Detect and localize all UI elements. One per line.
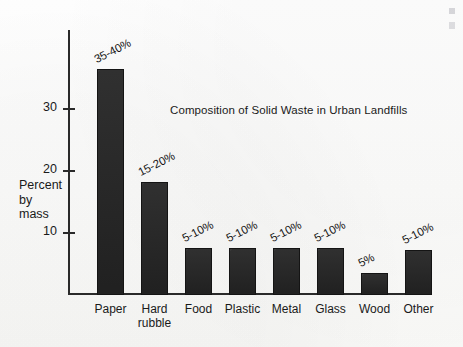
x-axis-category-label: Glass [315,303,346,317]
bar-group[interactable]: 35-40%Paper [97,69,124,295]
bar-value-label: 5-10% [224,218,260,245]
bar-value-label: 15-20% [136,149,177,179]
bar-value-label: 35-40% [92,36,133,66]
bar-rect[interactable] [185,248,212,295]
bar-group[interactable]: 5-10%Other [405,250,432,295]
bar-value-label: 5-10% [400,220,436,247]
bar-group[interactable]: 5-10%Food [185,248,212,295]
x-axis-category-label: Wood [359,303,390,317]
bar-rect[interactable] [229,248,256,295]
bar-rect[interactable] [141,182,168,295]
bar-group[interactable]: 5-10%Glass [317,248,344,295]
x-axis-category-label: Plastic [225,303,260,317]
bar-rect[interactable] [405,250,432,295]
bar-value-label: 5-10% [312,218,348,245]
y-axis-tick-30: 30 [63,108,75,110]
x-axis-category-label: Other [403,303,433,317]
y-axis-tick-label: 30 [43,100,57,114]
bar-value-label: 5% [356,251,377,270]
bar-group[interactable]: 5-10%Metal [273,248,300,295]
bar-rect[interactable] [361,273,388,295]
x-axis-category-label: Paper [94,303,126,317]
x-axis-category-label: Hard rubble [138,303,171,330]
y-axis-title: Percent by mass [19,178,62,222]
y-axis-line [68,30,70,295]
bar-rect[interactable] [273,248,300,295]
bar-rect[interactable] [317,248,344,295]
bar-chart-figure: 102030 Percent by mass Composition of So… [0,0,463,347]
y-axis-tick-20: 20 [63,170,75,172]
bar-group[interactable]: 15-20%Hard rubble [141,182,168,295]
y-axis-tick-label: 10 [43,224,57,238]
bar-value-label: 5-10% [268,218,304,245]
y-axis-tick-10: 10 [63,232,75,234]
chart-title: Composition of Solid Waste in Urban Land… [170,104,407,116]
bar-group[interactable]: 5%Wood [361,273,388,295]
scan-artifact [449,8,455,42]
bar-value-label: 5-10% [180,218,216,245]
bar-group[interactable]: 5-10%Plastic [229,248,256,295]
x-axis-category-label: Metal [272,303,301,317]
y-axis-tick-label: 20 [43,162,57,176]
bar-rect[interactable] [97,69,124,295]
x-axis-category-label: Food [185,303,212,317]
